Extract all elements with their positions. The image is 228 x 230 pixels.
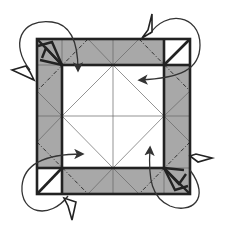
diagram-canvas <box>0 0 228 230</box>
origami-diagram: Origami fold diagram: fold corners and e… <box>0 0 228 230</box>
